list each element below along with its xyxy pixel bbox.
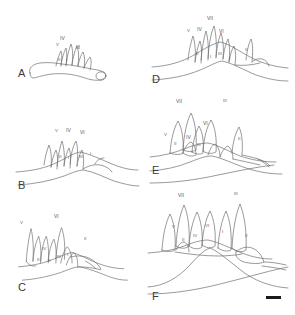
- label-cusp: II: [59, 155, 61, 159]
- label-cusp: II: [245, 234, 247, 238]
- panel-e-outline: [150, 113, 282, 183]
- label-cusp: II: [48, 259, 50, 263]
- label-cusp: IV: [186, 135, 191, 140]
- label-cusp: VI: [80, 130, 85, 135]
- label-cusp: II: [37, 258, 39, 262]
- label-cusp: VI: [54, 214, 59, 219]
- panel-e: VII III VI V IV II III II E: [148, 95, 295, 200]
- panel-c-outline: [19, 228, 128, 281]
- figure-plate: IV V III II I A: [0, 0, 295, 315]
- label-cusp: IV: [60, 36, 65, 41]
- label-cusp: I: [222, 230, 223, 234]
- label-cusp: III: [223, 99, 227, 103]
- panel-letter-d: D: [152, 74, 160, 85]
- panel-a-outline: [30, 44, 106, 80]
- label-cusp: III: [218, 52, 222, 56]
- label-cusp: I: [90, 152, 91, 156]
- panel-d: VII V IV VI II I III I II D: [148, 0, 295, 105]
- scale-bar: [266, 296, 281, 299]
- label-cusp: V: [172, 225, 175, 229]
- panel-b: V IV VI II I III I B: [0, 100, 147, 205]
- label-cusp: VI: [203, 121, 208, 126]
- label-cusp: V: [56, 43, 59, 47]
- label-cusp: II: [84, 237, 86, 241]
- label-cusp: IV: [197, 27, 202, 32]
- label-cusp: V: [187, 29, 190, 33]
- panel-e-drawing: [148, 95, 295, 200]
- label-cusp: II: [182, 238, 184, 242]
- label-cusp: II: [238, 137, 240, 141]
- panel-a: IV V III II I A: [0, 0, 147, 105]
- label-cusp: II: [58, 58, 60, 62]
- label-cusp: VII: [207, 16, 213, 21]
- label-cusp: II: [245, 48, 247, 52]
- label-cusp: VII: [178, 193, 184, 198]
- label-cusp: I: [67, 253, 68, 257]
- label-cusp: VII: [176, 99, 182, 104]
- label-cusp: II: [174, 142, 176, 146]
- label-cusp: IV: [42, 247, 46, 251]
- label-cusp: III: [234, 192, 238, 196]
- label-cusp: V: [55, 129, 58, 133]
- label-cusp: III: [57, 255, 61, 259]
- label-cusp: VI: [205, 224, 209, 228]
- panel-letter-b: B: [18, 180, 26, 191]
- panel-letter-e: E: [152, 165, 160, 176]
- label-cusp: I: [66, 59, 67, 63]
- label-cusp: I: [229, 57, 230, 61]
- label-cusp: III: [79, 155, 83, 159]
- panel-letter-c: C: [18, 282, 26, 293]
- label-cusp: I: [210, 55, 211, 59]
- label-cusp: I: [68, 156, 69, 160]
- label-cusp: IV: [193, 234, 197, 238]
- label-cusp: V: [164, 133, 167, 137]
- panel-letter-f: F: [152, 291, 159, 302]
- label-cusp: IV: [66, 128, 71, 133]
- label-cusp: V: [20, 221, 23, 225]
- panel-c: V VI II IV II II III I C: [0, 200, 147, 305]
- label-cusp: II: [196, 52, 198, 56]
- panel-letter-a: A: [18, 68, 26, 79]
- label-cusp: III: [197, 143, 201, 147]
- panel-a-drawing: [0, 0, 147, 105]
- panel-f-outline: [148, 204, 288, 294]
- label-cusp: VI: [219, 29, 224, 34]
- panel-b-outline: [16, 141, 139, 186]
- label-cusp: III: [76, 45, 80, 50]
